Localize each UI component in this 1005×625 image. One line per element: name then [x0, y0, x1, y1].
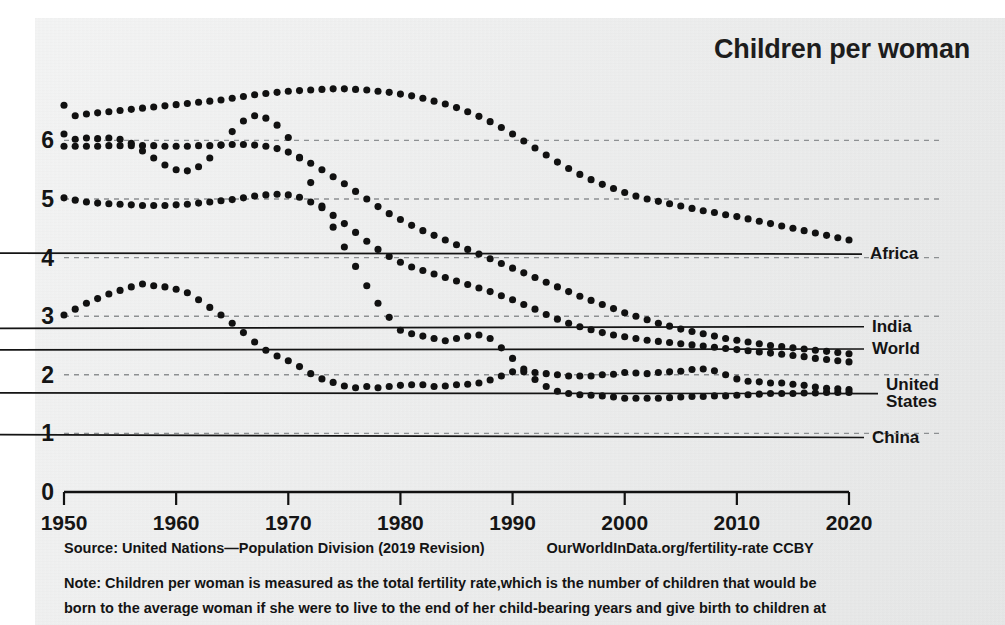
data-point — [240, 194, 247, 201]
data-point — [588, 372, 595, 379]
note-line: born to the average woman if she were to… — [64, 596, 994, 621]
data-point — [812, 347, 819, 354]
data-point — [431, 270, 438, 277]
data-point — [352, 229, 359, 236]
x-axis-tick-label: 2000 — [601, 511, 648, 535]
data-point — [60, 194, 67, 201]
data-point — [386, 89, 393, 96]
series-india — [60, 141, 852, 357]
data-point — [419, 227, 426, 234]
attribution-text[interactable]: OurWorldInData.org/fertility-rate CCBY — [547, 540, 814, 556]
data-point — [117, 142, 124, 149]
data-point — [397, 259, 404, 266]
data-point — [161, 283, 168, 290]
data-point — [789, 225, 796, 232]
data-point — [464, 108, 471, 115]
data-point — [520, 269, 527, 276]
data-point — [408, 92, 415, 99]
data-point — [173, 166, 180, 173]
data-point — [374, 88, 381, 95]
data-point — [733, 337, 740, 344]
data-point — [94, 295, 101, 302]
data-point — [285, 134, 292, 141]
data-point — [655, 320, 662, 327]
data-point — [229, 128, 236, 135]
data-point — [688, 341, 695, 348]
data-point — [610, 331, 617, 338]
data-point — [655, 198, 662, 205]
data-point — [543, 311, 550, 318]
data-point — [240, 93, 247, 100]
data-point — [363, 238, 370, 245]
data-point — [161, 143, 168, 150]
data-point — [453, 277, 460, 284]
data-point — [498, 260, 505, 267]
data-point — [666, 339, 673, 346]
data-point — [83, 135, 90, 142]
data-point — [767, 342, 774, 349]
y-axis-tick-label: 0 — [20, 479, 54, 506]
data-point — [431, 232, 438, 239]
data-point — [677, 368, 684, 375]
data-point — [475, 113, 482, 120]
data-point — [644, 195, 651, 202]
y-axis-tick-label: 3 — [20, 303, 54, 330]
data-point — [206, 154, 213, 161]
data-point — [464, 281, 471, 288]
data-point — [419, 333, 426, 340]
data-point — [206, 304, 213, 311]
data-point — [655, 395, 662, 402]
data-point — [554, 283, 561, 290]
data-point — [588, 297, 595, 304]
data-point — [83, 198, 90, 205]
data-point — [789, 344, 796, 351]
data-point — [94, 143, 101, 150]
data-point — [105, 290, 112, 297]
data-point — [330, 224, 337, 231]
data-point — [531, 144, 538, 151]
data-point — [150, 154, 157, 161]
data-point — [206, 98, 213, 105]
data-point — [139, 280, 146, 287]
data-point — [307, 198, 314, 205]
data-point — [531, 274, 538, 281]
data-point — [767, 350, 774, 357]
data-point — [274, 122, 281, 129]
x-axis-tick-label: 2020 — [826, 511, 873, 535]
data-point — [442, 274, 449, 281]
data-point — [251, 91, 258, 98]
data-point — [105, 142, 112, 149]
data-point — [60, 143, 67, 150]
data-point — [262, 90, 269, 97]
data-point — [666, 368, 673, 375]
data-point — [834, 349, 841, 356]
x-axis-tick-label: 1990 — [489, 511, 536, 535]
data-point — [845, 358, 852, 365]
data-point — [318, 86, 325, 93]
data-point — [531, 306, 538, 313]
data-point — [801, 227, 808, 234]
x-axis-tick-label: 2010 — [713, 511, 760, 535]
data-point — [610, 185, 617, 192]
data-point — [419, 267, 426, 274]
data-point — [262, 191, 269, 198]
data-point — [834, 357, 841, 364]
data-point — [173, 286, 180, 293]
data-point — [475, 379, 482, 386]
data-point — [397, 91, 404, 98]
data-point — [520, 301, 527, 308]
data-point — [576, 372, 583, 379]
data-point — [487, 255, 494, 262]
data-point — [274, 89, 281, 96]
data-point — [217, 311, 224, 318]
data-point — [688, 205, 695, 212]
data-point — [722, 211, 729, 218]
data-point — [341, 180, 348, 187]
data-point — [442, 101, 449, 108]
data-point — [352, 86, 359, 93]
data-point — [262, 115, 269, 122]
data-point — [352, 188, 359, 195]
data-point — [94, 135, 101, 142]
data-point — [117, 136, 124, 143]
data-point — [599, 301, 606, 308]
